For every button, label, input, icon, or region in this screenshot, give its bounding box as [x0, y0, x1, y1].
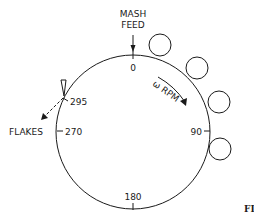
- flakes-label: FLAKES: [9, 127, 43, 137]
- roller-3: [208, 91, 230, 113]
- doctor-blade-icon: [61, 80, 66, 96]
- tick-label-270: 270: [65, 127, 82, 137]
- tick-label-0: 0: [130, 63, 136, 73]
- roller-1: [149, 34, 171, 56]
- tick-label-90: 90: [191, 127, 203, 137]
- mash-feed-arrow-head-icon: [131, 45, 136, 52]
- tick-label-180: 180: [124, 192, 141, 202]
- flaker-diagram: MASH FEED 0 90 180 270 295 FLAKES ω RPM …: [0, 0, 254, 218]
- tick-295: [63, 98, 68, 101]
- roller-2: [186, 57, 208, 79]
- roller-4: [209, 138, 231, 160]
- tick-label-295: 295: [70, 97, 87, 107]
- mash-feed-label-line2: FEED: [121, 20, 145, 30]
- mash-feed-label-line1: MASH: [120, 9, 146, 19]
- figure-label: FI: [244, 204, 254, 214]
